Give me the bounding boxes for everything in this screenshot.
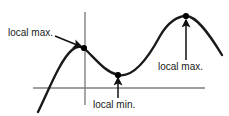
point-local-min — [115, 72, 121, 78]
arrow-to-local-max-left — [55, 36, 82, 47]
point-local-max-right — [183, 13, 189, 19]
point-local-max-left — [81, 45, 87, 51]
label-local-max-left: local max. — [8, 27, 53, 38]
local-extrema-figure: local max. local min. local max. — [0, 0, 229, 116]
label-local-min: local min. — [93, 99, 135, 110]
label-local-max-right: local max. — [158, 61, 203, 72]
